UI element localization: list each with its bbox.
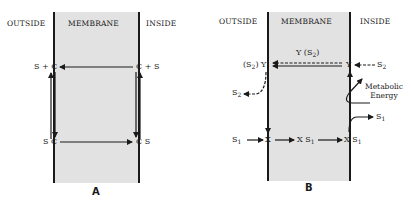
b-arrow-s1-release bbox=[349, 117, 373, 132]
arrows-layer bbox=[0, 0, 411, 203]
b-arrow-s2-release bbox=[244, 72, 266, 94]
